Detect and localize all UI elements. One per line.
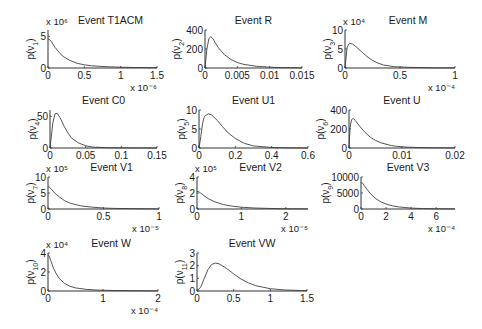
x-tick-label: 0.6 [301,150,315,161]
y-axis-label: p(ν8) [174,182,188,203]
y-tick-label: 10 [186,105,198,116]
y-multiplier: x 10⁴ [343,16,365,27]
y-tick-label: 200 [186,44,203,55]
y-tick-label: 2 [189,260,195,271]
x-tick-label: 0.01 [260,70,280,81]
x-tick-label: 1.5 [150,70,164,81]
y-axis-label: p(ν6) [315,118,329,139]
y-axis-label: p(ν10) [25,259,39,284]
density-curve [345,43,455,68]
x-tick-label: 0 [196,150,202,161]
x-tick-label: 0.5 [77,70,91,81]
y-axis-label: p(ν11) [174,260,188,285]
y-multiplier: x 10⁵ [46,163,68,174]
x-tick-label: 4 [408,211,414,222]
y-axis-label: p(ν9) [320,182,334,203]
y-tick-label: 10 [35,172,47,183]
subplot-title: Event V1 [90,161,133,173]
x-tick-label: 0 [45,293,51,304]
x-multiplier: x 10⁻⁶ [130,82,157,93]
density-curve [48,187,159,209]
y-tick-label: 2 [40,267,46,278]
x-tick-label: 1 [118,70,124,81]
x-tick-label: 0.4 [265,150,279,161]
x-tick-label: 0.1 [114,150,128,161]
subplot-event-v1: 00.510510Event V1x 10⁵x 10⁻⁵p(ν7) [25,161,162,234]
subplot-event-t1acm: 00.511.505Event T1ACMx 10⁶x 10⁻⁶p(ν1) [25,14,164,93]
y-axis-label: p(ν2) [171,38,185,59]
y-tick-label: 3 [189,248,195,259]
y-tick-label: 1 [189,273,195,284]
x-tick-label: 0 [47,150,53,161]
y-tick-label: 0 [40,63,46,74]
subplot-event-u: 00.010.020200400Event Up(ν6) [315,94,465,161]
y-tick-label: 0 [341,143,347,154]
y-axis-label: p(ν5) [176,118,190,139]
x-tick-label: 0.005 [225,70,250,81]
subplot-title: Event T1ACM [78,14,143,26]
x-tick-label: 0 [45,211,51,222]
figure-canvas: 00.511.505Event T1ACMx 10⁶x 10⁻⁶p(ν1)00.… [0,0,482,329]
x-tick-label: 0 [194,211,200,222]
y-tick-label: 0 [197,63,203,74]
y-tick-label: 2 [189,188,195,199]
x-tick-label: 0.02 [445,150,465,161]
y-tick-label: 0 [189,204,195,215]
y-tick-label: 5 [40,188,46,199]
y-tick-label: 0 [42,143,48,154]
x-tick-label: 0 [202,70,208,81]
y-multiplier: x 10⁴ [46,239,68,250]
density-curve [349,119,455,149]
x-multiplier: x 10⁻⁵ [281,223,308,234]
subplot-event-c0: 00.050.10.15050Event C0p(ν4) [27,94,167,161]
y-tick-label: 5000 [337,188,360,199]
x-tick-label: 0 [194,293,200,304]
x-tick-label: 1 [452,70,458,81]
subplot-title: Event V2 [239,161,282,173]
subplot-title: Event C0 [82,94,125,106]
density-curve [197,191,308,209]
y-tick-label: 0 [337,63,343,74]
y-tick-label: 400 [330,105,347,116]
subplot-event-v3: 02460500010000Event V3x 10⁻⁴p(ν9) [320,161,455,234]
x-tick-label: 0.05 [76,150,96,161]
y-tick-label: 0 [353,204,359,215]
x-multiplier: x 10⁻⁴ [428,223,455,234]
y-multiplier: x 10⁶ [46,16,68,27]
subplot-title: Event U1 [232,94,275,106]
y-tick-label: 50 [37,111,49,122]
x-tick-label: 0.2 [228,150,242,161]
y-tick-label: 0 [40,286,46,297]
density-curve [199,114,308,148]
x-tick-label: 0.5 [393,70,407,81]
density-curve [205,37,302,68]
x-tick-label: 0 [45,70,51,81]
subplot-event-vw: 00.511.50123Event VWp(ν11) [174,237,314,304]
y-tick-label: 10 [332,25,344,36]
x-tick-label: 2 [155,293,161,304]
x-tick-label: 0 [358,211,364,222]
y-axis-label: p(ν7) [25,182,39,203]
y-axis-label: p(ν1) [25,38,39,59]
x-tick-label: 1 [156,211,162,222]
x-multiplier: x 10⁻⁴ [131,305,158,316]
x-tick-label: 2 [383,211,389,222]
subplot-event-u1: 00.20.40.60510Event U1p(ν5) [176,94,315,161]
y-tick-label: 200 [330,124,347,135]
x-tick-label: 1 [100,293,106,304]
x-tick-label: 0 [346,150,352,161]
x-tick-label: 0 [342,70,348,81]
x-tick-label: 1 [268,293,274,304]
x-tick-label: 0.5 [227,293,241,304]
subplot-event-w: 012024Event Wx 10⁴x 10⁻⁴p(ν10) [25,237,161,316]
x-multiplier: x 10⁻⁴ [428,82,455,93]
x-tick-label: 0.015 [289,70,314,81]
density-curve [361,182,455,209]
x-tick-label: 1.5 [300,293,314,304]
subplot-event-m: 00.510510Event Mx 10⁴x 10⁻⁴p(ν3) [322,14,458,93]
y-tick-label: 0 [40,204,46,215]
y-tick-label: 5 [337,44,343,55]
subplot-title: Event W [91,237,131,249]
subplot-title: Event U [383,94,420,106]
x-tick-label: 1 [239,211,245,222]
